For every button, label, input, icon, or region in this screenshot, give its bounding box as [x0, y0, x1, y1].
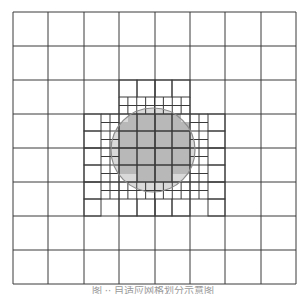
refined-cell [84, 148, 101, 165]
refined-cell [119, 199, 137, 216]
figure-caption: 图 ·· 自适应网格划分示意图 [0, 286, 306, 294]
refined-cell [84, 199, 101, 216]
refined-cell [84, 165, 101, 182]
mesh-grid-lines [13, 12, 296, 284]
refined-cell [137, 199, 155, 216]
refined-cell [208, 199, 225, 216]
refined-cell [208, 114, 225, 131]
interior-cell [172, 165, 181, 174]
refined-cell [84, 114, 101, 131]
refined-cell [172, 80, 190, 97]
refined-cell [155, 80, 172, 97]
refined-cell [208, 131, 225, 148]
refined-cell [208, 182, 225, 199]
adaptive-mesh-diagram [0, 0, 306, 294]
interior-cell [172, 114, 181, 131]
refined-cell [208, 148, 225, 165]
refined-cell [172, 199, 190, 216]
interior-cell [119, 165, 128, 174]
refined-cell [84, 131, 101, 148]
refined-cell [137, 80, 155, 97]
interior-cell [128, 114, 137, 131]
refined-cell [84, 182, 101, 199]
refined-cell [208, 165, 225, 182]
interior-cell [128, 165, 137, 174]
refined-cell [155, 199, 172, 216]
refined-cell [119, 80, 137, 97]
